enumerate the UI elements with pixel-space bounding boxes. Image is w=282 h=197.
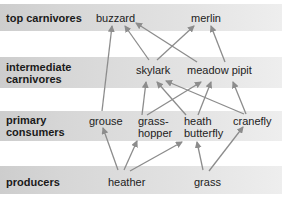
arrow-meadowpipit-to-buzzard (136, 23, 197, 62)
node-grouse: grouse (89, 115, 123, 127)
arrow-cranefly-to-meadowpipit (233, 82, 246, 114)
arrow-heather-to-grouse (103, 128, 118, 170)
food-web-arrows (0, 0, 282, 197)
node-cranefly: cranefly (233, 115, 272, 127)
arrow-grasshopper-to-skylark (142, 82, 146, 115)
node-meadow-pipit: meadow pipit (187, 64, 252, 76)
node-skylark: skylark (136, 64, 170, 76)
arrow-heather-to-grasshopper (124, 141, 137, 170)
arrow-skylark-to-merlin (157, 26, 194, 60)
node-heath-butterfly: heath butterfly (184, 115, 223, 139)
arrow-grass-to-heathbutterfly (197, 142, 203, 170)
arrow-meadowpipit-to-merlin (211, 26, 225, 62)
node-grasshopper-line: grass- (138, 115, 172, 127)
arrow-skylark-to-buzzard (125, 26, 149, 60)
node-heath-butterfly-line: butterfly (184, 127, 223, 139)
arrow-grouse-to-buzzard (102, 26, 112, 111)
node-grasshopper: grass- hopper (138, 115, 172, 139)
node-heather: heather (108, 176, 145, 188)
arrow-heather-to-heathbutterfly (130, 142, 182, 171)
node-grasshopper-line: hopper (138, 127, 172, 139)
node-grass: grass (194, 176, 221, 188)
arrow-heathbutterfly-to-meadowpipit (198, 82, 211, 115)
node-heath-butterfly-line: heath (184, 115, 223, 127)
node-merlin: merlin (191, 12, 221, 24)
node-buzzard: buzzard (96, 12, 135, 24)
arrow-grasshopper-to-meadowpipit (147, 82, 201, 115)
